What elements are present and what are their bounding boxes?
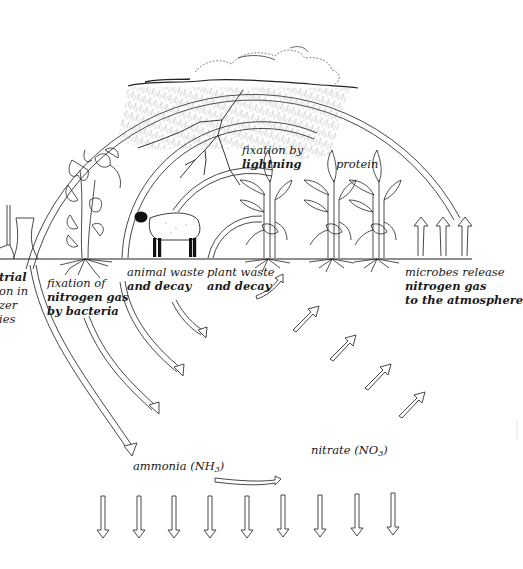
down-arrow-icon [168, 496, 180, 538]
down-arrow-icon [314, 495, 326, 537]
diagonal-up-arrow-icon [330, 335, 356, 361]
down-arrow-icon [97, 496, 109, 538]
ammonia-label: ammonia (NH3) [133, 459, 224, 477]
atmosphere-arrows [414, 217, 472, 256]
decay-arc [173, 168, 273, 212]
down-arrow-icon [204, 496, 216, 538]
factory-icon [0, 205, 38, 259]
down-arrow-icon [387, 493, 399, 535]
down-arrow-icon [277, 495, 289, 537]
leaching-arrows [97, 493, 399, 538]
nitrate-label: nitrate (NO3) [311, 443, 388, 461]
microbes-release-label: microbes release nitrogen gas to the atm… [405, 265, 523, 307]
down-arrow-icon [351, 494, 363, 536]
animal-waste-label: animal waste and decay [127, 265, 204, 293]
nitrate-arrows [293, 306, 425, 418]
down-arrow-icon [241, 496, 253, 538]
industrial-fixation-label: trial on in zer ies [0, 270, 28, 326]
diagonal-up-arrow-icon [399, 392, 425, 418]
up-arrow-icon [436, 217, 450, 256]
bacteria-fixation-label: fixation of nitrogen gas by bacteria [47, 276, 128, 318]
sheep-icon [135, 212, 200, 258]
plant-waste-label: plant waste and decay [207, 265, 275, 293]
storm-cloud-icon [100, 47, 358, 210]
diagonal-up-arrow-icon [365, 364, 391, 390]
lightning-fixation-label: fixation by lightning [242, 143, 303, 171]
up-arrow-icon [414, 217, 428, 256]
up-arrow-icon [458, 217, 472, 256]
ammonia-to-nitrate-arrow [215, 476, 281, 485]
protein-label: protein [336, 157, 378, 171]
plant-arc [208, 216, 262, 258]
down-arrow-icon [133, 496, 145, 538]
diagonal-up-arrow-icon [293, 306, 319, 332]
